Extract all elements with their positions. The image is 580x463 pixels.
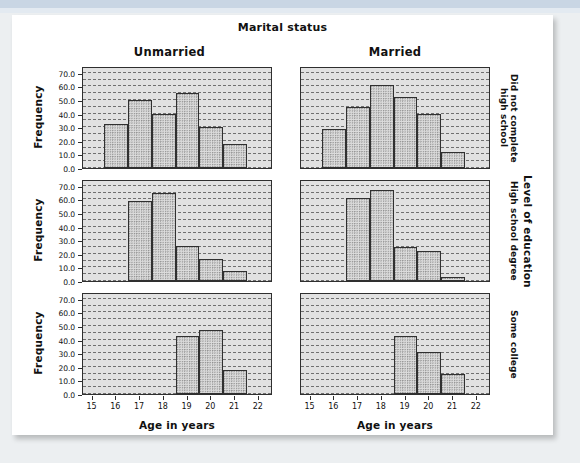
x-tick-mark: [92, 396, 93, 400]
y-tick-label: 60.0: [58, 309, 75, 318]
bar: [223, 144, 247, 168]
y-tick-label: 20.0: [58, 137, 75, 146]
y-tick-label: 0.0: [63, 391, 75, 400]
x-tick-label: 15: [86, 402, 96, 411]
bar-series: [301, 294, 489, 394]
row-label-did-not-complete-high-school: Did not complete high school: [496, 67, 518, 169]
panel-married-high-school-degree: [300, 180, 490, 282]
y-tick-mark: [78, 241, 82, 242]
y-tick-label: 20.0: [58, 250, 75, 259]
y-tick-label: 40.0: [58, 336, 75, 345]
y-tick-mark: [78, 268, 82, 269]
x-tick-mark: [405, 396, 406, 400]
x-tick-label: 19: [181, 402, 191, 411]
x-tick-label: 22: [253, 402, 263, 411]
x-tick-label: 16: [328, 402, 338, 411]
bar-series: [301, 181, 489, 281]
bar: [199, 259, 223, 281]
x-tick-label: 15: [304, 402, 314, 411]
x-axis: 1516171819202122: [82, 396, 272, 416]
y-tick-mark: [78, 142, 82, 143]
y-axis-label: Frequency: [32, 179, 44, 281]
bar: [441, 152, 465, 168]
bar-series: [301, 68, 489, 168]
bar: [394, 247, 418, 281]
bar: [370, 190, 394, 281]
y-axis-label: Frequency: [32, 66, 44, 168]
page-top-strip-secondary: [0, 8, 580, 13]
bar: [441, 374, 465, 394]
panel-married-did-not-complete-high-school: [300, 67, 490, 169]
panel-unmarried-did-not-complete-high-school: [82, 67, 272, 169]
y-tick-label: 60.0: [58, 83, 75, 92]
y-tick-label: 50.0: [58, 323, 75, 332]
panel-unmarried-high-school-degree: [82, 180, 272, 282]
x-tick-mark: [187, 396, 188, 400]
chart-title: Marital status: [12, 21, 553, 34]
bar: [199, 127, 223, 168]
bar: [223, 271, 247, 281]
bar: [199, 330, 223, 394]
y-axis: 0.010.020.030.040.050.060.070.0: [48, 180, 82, 282]
x-tick-mark: [163, 396, 164, 400]
y-tick-mark: [78, 300, 82, 301]
bar: [346, 198, 370, 281]
y-tick-label: 30.0: [58, 350, 75, 359]
y-tick-mark: [78, 282, 82, 283]
bar: [223, 370, 247, 394]
y-tick-mark: [78, 115, 82, 116]
x-tick-label: 20: [205, 402, 215, 411]
bar: [152, 114, 176, 168]
y-tick-label: 10.0: [58, 151, 75, 160]
panel-married-some-college: [300, 293, 490, 395]
x-tick-mark: [210, 396, 211, 400]
y-tick-mark: [78, 341, 82, 342]
x-tick-label: 18: [376, 402, 386, 411]
y-tick-label: 10.0: [58, 264, 75, 273]
y-tick-mark: [78, 187, 82, 188]
x-axis-label: Age in years: [300, 419, 490, 431]
y-tick-label: 40.0: [58, 110, 75, 119]
x-tick-mark: [381, 396, 382, 400]
x-tick-mark: [333, 396, 334, 400]
chart-card: Marital status Unmarried Married 0.010.0…: [12, 15, 553, 435]
bar: [417, 251, 441, 281]
bar: [441, 277, 465, 281]
column-title-unmarried: Unmarried: [42, 45, 297, 59]
x-tick-mark: [310, 396, 311, 400]
bar: [176, 93, 200, 168]
y-axis: 0.010.020.030.040.050.060.070.0: [48, 67, 82, 169]
bar: [128, 201, 152, 281]
y-axis: 0.010.020.030.040.050.060.070.0: [48, 293, 82, 395]
x-tick-label: 17: [352, 402, 362, 411]
column-title-married: Married: [270, 45, 520, 59]
y-tick-label: 60.0: [58, 196, 75, 205]
y-tick-label: 50.0: [58, 97, 75, 106]
x-tick-mark: [428, 396, 429, 400]
y-tick-mark: [78, 313, 82, 314]
x-tick-mark: [115, 396, 116, 400]
y-tick-mark: [78, 101, 82, 102]
bar-series: [83, 294, 271, 394]
x-tick-label: 21: [229, 402, 239, 411]
y-tick-label: 30.0: [58, 237, 75, 246]
y-tick-mark: [78, 200, 82, 201]
bar: [417, 352, 441, 394]
bar-series: [83, 68, 271, 168]
y-tick-mark: [78, 74, 82, 75]
y-tick-mark: [78, 368, 82, 369]
y-tick-label: 70.0: [58, 69, 75, 78]
row-label-high-school-degree: High school degree: [496, 180, 518, 282]
bar: [176, 246, 200, 281]
x-tick-mark: [357, 396, 358, 400]
y-tick-mark: [78, 228, 82, 229]
row-label-some-college: Some college: [496, 293, 518, 395]
y-tick-label: 0.0: [63, 278, 75, 287]
bar: [417, 114, 441, 168]
x-tick-label: 16: [110, 402, 120, 411]
y-tick-label: 30.0: [58, 124, 75, 133]
y-axis-label: Frequency: [32, 292, 44, 394]
bar: [128, 100, 152, 168]
x-tick-label: 19: [399, 402, 409, 411]
x-tick-mark: [476, 396, 477, 400]
